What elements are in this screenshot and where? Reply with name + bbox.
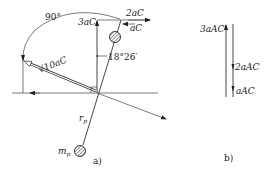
upper-mass-circle <box>110 32 121 43</box>
label-rp: rp <box>79 113 87 125</box>
arrow-aAC <box>232 86 235 92</box>
mass-mp-circle <box>75 146 86 157</box>
label-2aC: 2aC <box>125 8 144 18</box>
figure-b: 3aAC 2aAC aAC b) <box>200 24 260 163</box>
label-aAC: aAC <box>236 86 255 96</box>
label-3aC: 3aC <box>78 17 96 27</box>
label-18-26: 18°26′ <box>108 52 137 62</box>
label-90deg: 90° <box>45 12 61 22</box>
label-2aAC: 2aAC <box>234 62 260 72</box>
caption-b: b) <box>224 153 233 163</box>
diagram-canvas: 90° 3aC 2aC aC 18°26′ √10aC rp mp a) 3aA… <box>0 0 269 176</box>
label-aC: aC <box>130 23 142 33</box>
figure-a: 90° 3aC 2aC aC 18°26′ √10aC rp mp a) <box>12 8 166 166</box>
resultant-arrowhead <box>24 61 32 67</box>
caption-a: a) <box>93 156 102 166</box>
label-mp: mp <box>58 146 71 158</box>
diagonal-vector <box>97 93 166 119</box>
label-3aAC: 3aAC <box>200 24 225 34</box>
